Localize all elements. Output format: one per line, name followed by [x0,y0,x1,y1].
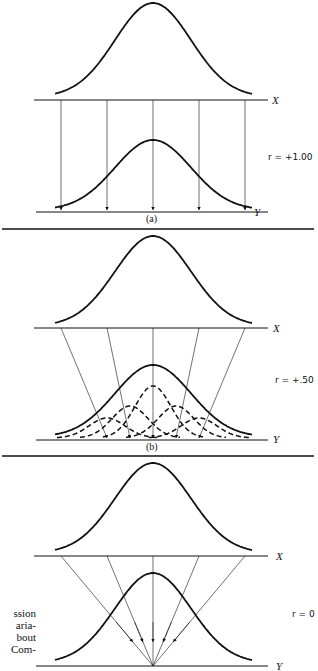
x-axis-label: X [275,550,284,562]
regression-arrow [61,328,107,438]
y-axis-label: Y [273,433,281,445]
caption-fragment-line: ssion [0,608,36,620]
regression-arrow [199,328,245,438]
regression-diagram: X Y r = +1.00 (a) X Y r = +.50 (b) X Y r… [0,0,318,671]
y-distribution-curve [55,573,252,660]
panel-caption: (a) [146,213,157,225]
panel-c [34,463,268,666]
x-axis-label: X [271,94,280,106]
x-distribution-curve [55,463,252,550]
panel-caption: (b) [146,441,158,453]
regression-arrow [135,622,143,642]
caption-fragment-line: bout [0,632,36,644]
panel-b [34,236,268,440]
regression-line [61,556,153,666]
y-distribution-curve [55,140,252,208]
x-axis-label: X [272,322,281,334]
caption-fragment-line: aria- [0,620,36,632]
y-axis-label: Y [276,660,284,671]
conditional-distribution-curve [57,418,157,438]
correlation-label: r = 0 [292,609,315,619]
regression-arrow [163,622,171,642]
regression-arrow [116,622,133,642]
caption-fragment-line: Com- [0,644,36,656]
x-distribution-curve [55,236,252,323]
x-distribution-curve [55,3,252,94]
regression-line [153,556,245,666]
correlation-label: r = +.50 [275,375,314,385]
panel-a [34,3,268,212]
regression-arrow [173,622,190,642]
correlation-label: r = +1.00 [268,152,313,162]
conditional-distribution-curve [149,418,249,438]
